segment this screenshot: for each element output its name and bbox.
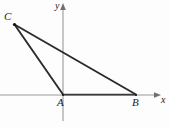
x-axis-label: x <box>161 95 165 105</box>
y-axis-label: y <box>55 1 59 11</box>
figure-canvas <box>0 0 170 127</box>
segment-cb <box>15 25 137 95</box>
x-axis-arrowhead-icon <box>154 92 161 98</box>
vertex-label-c: C <box>4 11 11 22</box>
vertex-label-b: B <box>132 97 139 108</box>
y-axis-arrowhead-icon <box>60 3 66 10</box>
segment-ca <box>15 25 64 95</box>
vertex-label-a: A <box>57 97 64 108</box>
geometry-figure: C A B y x <box>0 0 170 127</box>
vertex-dot-c <box>13 23 16 26</box>
